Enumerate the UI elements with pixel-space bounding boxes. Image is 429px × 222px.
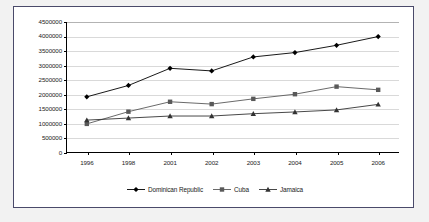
y-axis-tick-label: 500000 <box>42 135 62 141</box>
y-tick-mark <box>64 153 67 154</box>
data-point-marker <box>167 66 172 71</box>
legend-item-cuba[interactable]: Cuba <box>212 185 249 194</box>
diamond-marker-icon <box>126 185 146 194</box>
data-point-marker <box>209 102 213 106</box>
screenshot-root: 0500000100000015000002000000250000030000… <box>0 0 429 222</box>
legend-label: Dominican Republic <box>148 186 203 193</box>
data-point-marker <box>133 187 138 192</box>
data-point-marker <box>126 83 131 88</box>
x-axis-tick-label: 2006 <box>372 159 385 166</box>
data-point-marker <box>84 94 89 99</box>
data-point-marker <box>376 34 381 39</box>
data-point-marker <box>126 109 130 113</box>
y-axis-tick-label: 2500000 <box>39 77 62 83</box>
y-axis-tick-label: 0 <box>59 150 62 156</box>
y-axis-labels: 0500000100000015000002000000250000030000… <box>14 22 62 153</box>
y-axis-tick-label: 1500000 <box>39 106 62 112</box>
data-point-marker <box>375 102 380 107</box>
data-point-marker <box>334 84 338 88</box>
x-axis-tick-label: 2003 <box>247 159 260 166</box>
x-axis-tick-label: 1998 <box>122 159 135 166</box>
data-point-marker <box>251 54 256 59</box>
y-axis-tick-label: 4500000 <box>39 19 62 25</box>
x-axis-labels: 19961998200120022003200420052006 <box>66 159 399 171</box>
data-point-marker <box>334 43 339 48</box>
data-point-marker <box>168 100 172 104</box>
x-axis-tick-label: 2001 <box>163 159 176 166</box>
legend-item-dominican-republic[interactable]: Dominican Republic <box>126 185 203 194</box>
data-point-marker <box>85 122 89 126</box>
legend-label: Jamaica <box>280 186 303 193</box>
chart-frame: 0500000100000015000002000000250000030000… <box>13 6 414 208</box>
y-axis-tick-label: 3500000 <box>39 48 62 54</box>
data-point-marker <box>292 50 297 55</box>
square-marker-icon <box>212 185 232 194</box>
triangle-marker-icon <box>258 185 278 194</box>
data-point-marker <box>251 97 255 101</box>
data-point-marker <box>376 88 380 92</box>
y-axis-tick-label: 2000000 <box>39 92 62 98</box>
data-point-marker <box>220 187 224 191</box>
legend-label: Cuba <box>234 186 249 193</box>
x-axis-tick-label: 2002 <box>205 159 218 166</box>
legend-item-jamaica[interactable]: Jamaica <box>258 185 303 194</box>
data-point-marker <box>209 68 214 73</box>
data-series-layer <box>66 22 399 153</box>
data-point-marker <box>293 92 297 96</box>
series-dominican-republic <box>84 34 381 99</box>
x-axis-tick-label: 2004 <box>288 159 301 166</box>
y-axis-tick-label: 4000000 <box>39 33 62 39</box>
y-axis-tick-label: 1000000 <box>39 121 62 127</box>
chart-inner: 0500000100000015000002000000250000030000… <box>14 7 413 207</box>
x-axis-tick-label: 2005 <box>330 159 343 166</box>
x-axis-tick-label: 1996 <box>80 159 93 166</box>
chart-legend: Dominican RepublicCubaJamaica <box>14 185 415 194</box>
y-axis-tick-label: 3000000 <box>39 63 62 69</box>
